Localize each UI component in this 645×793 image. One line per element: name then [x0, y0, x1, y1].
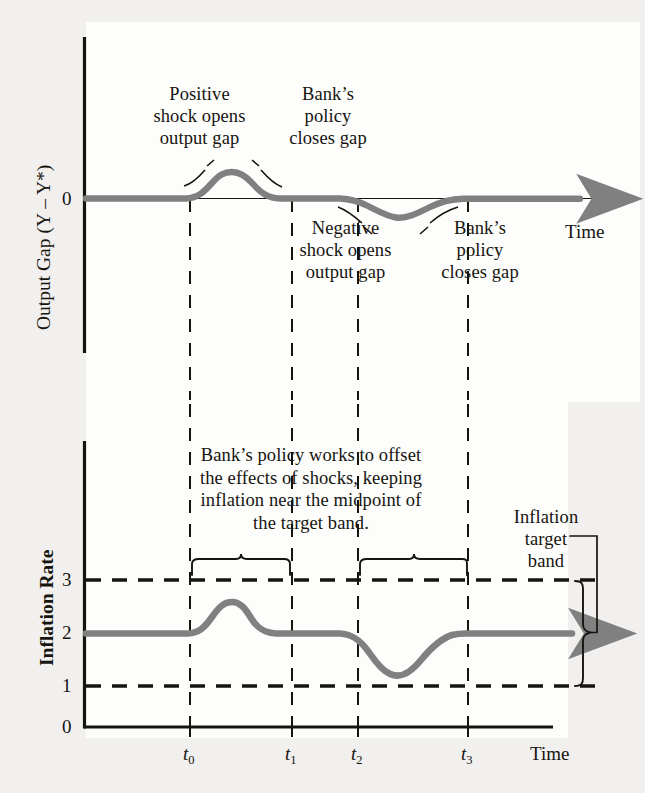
brace-t2-t3: [360, 554, 467, 575]
time-tick-t0-sub: 0: [188, 753, 194, 767]
top-y-zero-label: 0: [62, 188, 72, 210]
y-tick-2: 2: [62, 622, 72, 644]
time-tick-t2-sub: 2: [356, 753, 362, 767]
inflation-rate-curve: [86, 602, 572, 676]
output-gap-curve: [86, 172, 580, 218]
inflation-brace-markers: [192, 554, 467, 575]
top-y-axis-label: Output Gap (Y – Y*): [33, 165, 55, 330]
annotation-inflation-target-band: Inflation target band: [498, 506, 594, 573]
bottom-y-axis-label: Inflation Rate: [36, 550, 58, 666]
annotation-bank-policy-1: Bank’s policy closes gap: [268, 84, 388, 149]
time-tick-t2: t2: [351, 743, 363, 765]
annotation-positive-shock: Positive shock opens output gap: [131, 84, 268, 149]
brace-t0-t1: [192, 554, 290, 575]
time-tick-t3: t3: [461, 743, 473, 765]
top-x-axis-label: Time: [565, 221, 604, 243]
time-tick-t1-sub: 1: [290, 753, 296, 767]
bottom-x-axis-label: Time: [530, 743, 569, 765]
time-tick-t3-sub: 3: [466, 753, 472, 767]
time-tick-t1: t1: [285, 743, 297, 765]
annotation-negative-shock: Negative shock opens output gap: [277, 218, 414, 283]
time-tick-t0: t0: [183, 743, 195, 765]
y-tick-0: 0: [62, 716, 72, 738]
annotation-policy-note: Bank’s policy works to offset the effect…: [152, 444, 470, 534]
y-tick-1: 1: [62, 675, 72, 697]
figure-root: Output Gap (Y – Y*) 0 Time Positive shoc…: [0, 0, 645, 793]
y-tick-3: 3: [62, 569, 72, 591]
annotation-bank-policy-2: Bank’s policy closes gap: [420, 218, 540, 283]
